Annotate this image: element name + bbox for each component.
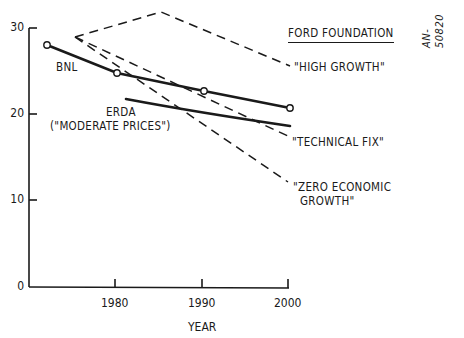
- y-tick-30: 30: [2, 20, 24, 34]
- x-tick-1990: 1990: [188, 296, 215, 310]
- y-tick-10: 10: [2, 192, 24, 206]
- line-chart: [0, 0, 464, 338]
- y-tick-20: 20: [2, 106, 24, 120]
- series-dashed: [75, 12, 290, 182]
- label-ford-foundation: FORD FOUNDATION: [288, 26, 394, 43]
- label-zero-growth-1: "ZERO ECONOMIC: [293, 180, 391, 194]
- series-high-growth: [75, 12, 290, 66]
- series-bnl: [47, 45, 290, 108]
- label-high-growth: "HIGH GROWTH": [294, 60, 385, 74]
- label-zero-growth-2: GROWTH": [300, 194, 355, 208]
- x-tick-1980: 1980: [101, 296, 128, 310]
- y-tick-0: 0: [2, 279, 24, 293]
- label-erda-sub: ("MODERATE PRICES"): [50, 119, 171, 133]
- label-erda: ERDA: [106, 105, 136, 119]
- x-axis: [29, 287, 289, 288]
- legend-group-title: FORD FOUNDATION: [288, 26, 394, 40]
- x-tick-2000: 2000: [274, 296, 301, 310]
- label-technical-fix: "TECHNICAL FIX": [292, 135, 384, 149]
- label-bnl: BNL: [56, 60, 78, 74]
- figure-id: AN-50820: [420, 4, 446, 48]
- x-axis-label: YEAR: [188, 320, 216, 334]
- series-solid: [47, 45, 290, 126]
